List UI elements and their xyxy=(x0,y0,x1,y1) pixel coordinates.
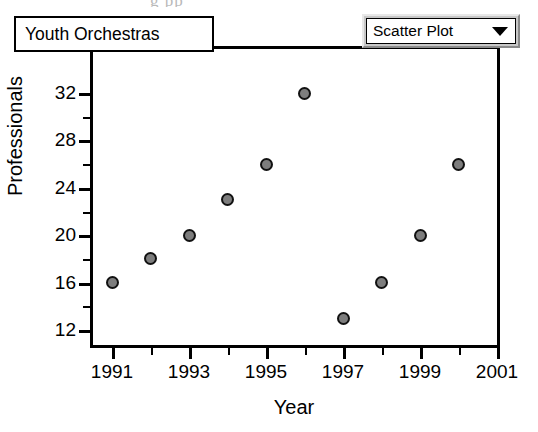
x-axis-tick-label: 1991 xyxy=(91,361,133,383)
y-axis-minor-tick xyxy=(83,212,90,214)
data-point[interactable] xyxy=(260,158,273,171)
y-axis-tick xyxy=(79,140,90,143)
plot-type-dropdown-inner[interactable]: Scatter Plot xyxy=(366,18,516,44)
x-axis-minor-tick xyxy=(382,348,384,355)
data-point[interactable] xyxy=(414,229,427,242)
x-axis-tick xyxy=(420,348,423,359)
x-axis-tick xyxy=(189,348,192,359)
plot-area: 121620242832199119931995199719992001 xyxy=(90,46,500,348)
x-axis-title: Year xyxy=(0,396,538,419)
chevron-down-icon xyxy=(492,27,508,36)
y-axis-tick-label: 28 xyxy=(55,129,76,151)
y-axis-tick-label: 24 xyxy=(55,177,76,199)
data-point[interactable] xyxy=(337,312,350,325)
x-axis-tick xyxy=(497,348,500,359)
y-axis-minor-tick xyxy=(83,306,90,308)
x-axis-tick-label: 1999 xyxy=(399,361,441,383)
x-axis-tick xyxy=(112,348,115,359)
y-axis-tick-label: 20 xyxy=(55,224,76,246)
data-point[interactable] xyxy=(183,229,196,242)
data-point[interactable] xyxy=(452,158,465,171)
x-axis-tick-label: 1993 xyxy=(168,361,210,383)
x-axis-tick-label: 2001 xyxy=(476,361,518,383)
y-axis-title: Professionals xyxy=(4,76,27,196)
x-axis-minor-tick xyxy=(228,348,230,355)
x-axis-tick xyxy=(266,348,269,359)
plot-type-dropdown[interactable]: Scatter Plot xyxy=(362,14,520,48)
y-axis-tick xyxy=(79,93,90,96)
chart-title-box: Youth Orchestras xyxy=(14,16,214,52)
y-axis-tick-label: 16 xyxy=(55,272,76,294)
chart-window: g pp Youth Orchestras Scatter Plot 12162… xyxy=(0,0,538,432)
x-axis-tick xyxy=(343,348,346,359)
data-point[interactable] xyxy=(106,276,119,289)
y-axis-tick xyxy=(79,188,90,191)
y-axis-tick-label: 32 xyxy=(55,82,76,104)
page-title: Youth Orchestras xyxy=(25,24,160,45)
x-axis-tick-label: 1995 xyxy=(245,361,287,383)
page-bleed-text: g pp xyxy=(150,0,410,7)
y-axis-tick xyxy=(79,283,90,286)
data-point[interactable] xyxy=(298,87,311,100)
data-point[interactable] xyxy=(144,252,157,265)
y-axis-minor-tick xyxy=(83,117,90,119)
data-point[interactable] xyxy=(375,276,388,289)
x-axis-tick-label: 1997 xyxy=(322,361,364,383)
y-axis-minor-tick xyxy=(83,164,90,166)
y-axis-minor-tick xyxy=(83,259,90,261)
data-point[interactable] xyxy=(221,193,234,206)
y-axis-tick-label: 12 xyxy=(55,319,76,341)
y-axis-tick xyxy=(79,235,90,238)
x-axis-minor-tick xyxy=(459,348,461,355)
y-axis-tick xyxy=(79,330,90,333)
x-axis-minor-tick xyxy=(305,348,307,355)
x-axis-minor-tick xyxy=(151,348,153,355)
plot-type-selected-value: Scatter Plot xyxy=(373,22,488,40)
